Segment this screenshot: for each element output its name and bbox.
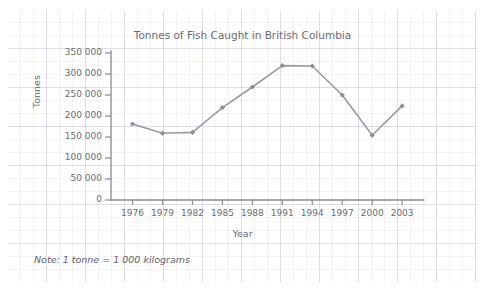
x-tick-label: 2003 (384, 208, 420, 218)
data-point-markers (130, 63, 405, 138)
y-tick-label: 100 000 (40, 152, 102, 162)
y-tick-label: 200 000 (40, 110, 102, 120)
data-point-marker (130, 121, 135, 126)
y-tick-label: 300 000 (40, 68, 102, 78)
chart-page: Tonnes of Fish Caught in British Columbi… (0, 0, 485, 293)
y-tick-label: 150 000 (40, 131, 102, 141)
y-tick-label: 250 000 (40, 89, 102, 99)
line-chart-plot (0, 0, 485, 293)
y-tick-label: 50 000 (40, 173, 102, 183)
y-axis-ticks (105, 53, 111, 200)
data-point-marker (160, 131, 165, 136)
y-tick-label: 350 000 (40, 47, 102, 57)
data-series-line (133, 66, 403, 136)
x-axis-ticks (133, 200, 403, 205)
y-tick-label: 0 (40, 194, 102, 204)
